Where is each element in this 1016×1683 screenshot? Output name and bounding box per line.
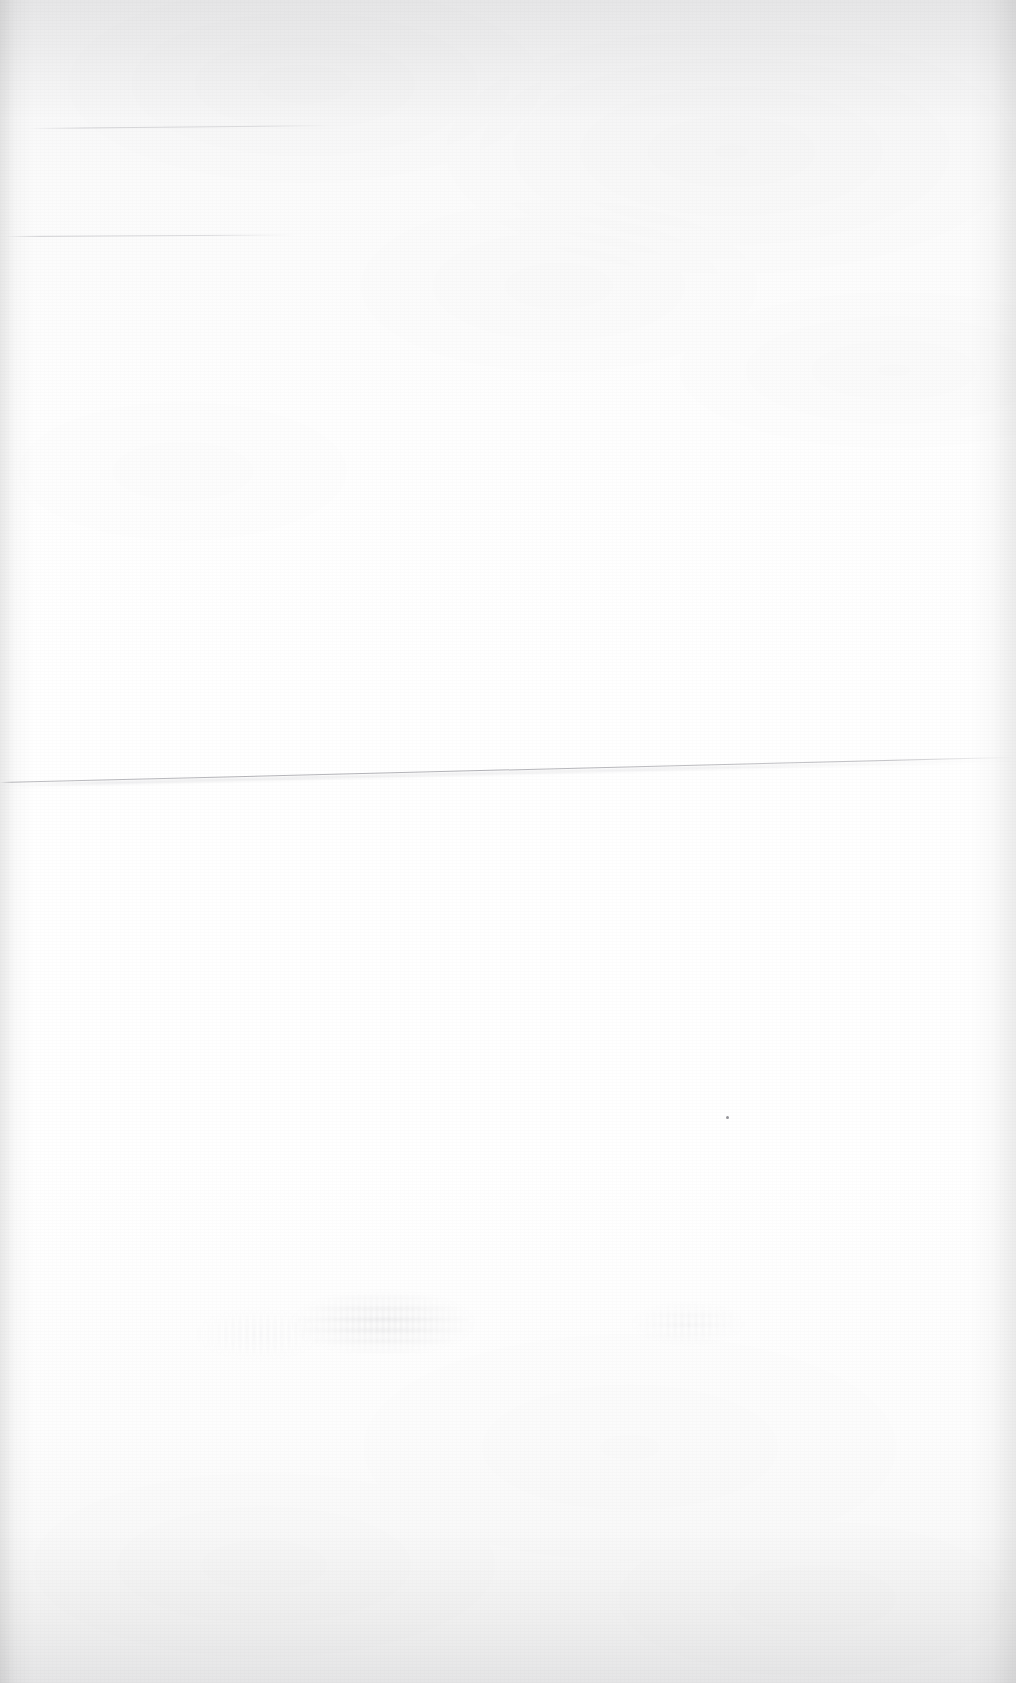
page-content-area: [60, 150, 956, 1533]
scanned-page: [0, 0, 1016, 1683]
